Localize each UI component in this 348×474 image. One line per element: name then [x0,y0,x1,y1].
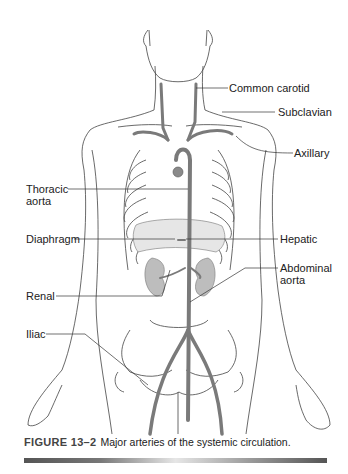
label-thoracic-aorta-2: aorta [26,195,51,207]
diaphragm-shape [133,219,225,252]
label-diaphragm: Diaphragm [26,233,80,245]
label-common-carotid: Common carotid [229,82,310,94]
left-iliac [150,330,188,434]
right-subclavian [188,131,232,140]
left-common-carotid [161,84,168,140]
head-outline [144,30,213,82]
label-thoracic-aorta-1: Thoracic [26,183,68,195]
label-subclavian: Subclavian [278,106,332,118]
label-renal: Renal [26,290,55,302]
anatomy-figure: Common carotid Subclavian Axillary Thora… [0,0,348,474]
label-abdominal-aorta-1: Abdominal [280,262,332,274]
aorta [176,150,190,421]
caption-text: Major arteries of the systemic circulati… [100,436,290,448]
caption-rule [24,458,327,463]
figure-number: FIGURE 13–2 [24,436,96,448]
label-hepatic: Hepatic [280,233,317,245]
right-common-carotid [188,84,196,140]
figure-caption: FIGURE 13–2Major arteries of the systemi… [24,436,291,448]
label-abdominal-aorta-2: aorta [280,274,305,286]
heart-arch [173,167,183,177]
right-kidney [196,258,216,296]
label-iliac: Iliac [26,328,46,340]
label-axillary: Axillary [294,147,329,159]
left-subclavian [134,132,168,140]
